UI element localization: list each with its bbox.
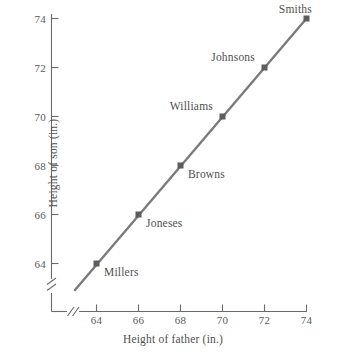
y-tick-label-64: 64 bbox=[24, 258, 46, 270]
point-label-joneses: Joneses bbox=[146, 217, 183, 229]
point-label-browns: Browns bbox=[188, 168, 225, 180]
data-point-marker bbox=[262, 65, 268, 71]
x-tick-label-64: 64 bbox=[91, 314, 102, 326]
x-tick-label-70: 70 bbox=[217, 314, 228, 326]
y-tick-label-66: 66 bbox=[24, 209, 46, 221]
scatter-line-chart: 74 72 70 68 66 64 64 66 68 70 72 74 Heig… bbox=[0, 0, 347, 353]
x-axis-ticks bbox=[97, 305, 307, 312]
x-axis-break-icon bbox=[68, 307, 80, 316]
x-tick-label-74: 74 bbox=[301, 314, 312, 326]
y-axis-title: Height of son (in.) bbox=[47, 119, 59, 208]
point-label-millers: Millers bbox=[104, 266, 139, 278]
y-tick-label-70: 70 bbox=[24, 111, 46, 123]
y-tick-label-72: 72 bbox=[24, 62, 46, 74]
point-label-johnsons: Johnsons bbox=[211, 51, 255, 63]
data-point-marker bbox=[178, 163, 184, 169]
x-axis-title: Height of father (in.) bbox=[123, 333, 223, 345]
data-point-marker bbox=[136, 212, 142, 218]
data-point-marker bbox=[304, 16, 310, 22]
x-tick-label-66: 66 bbox=[133, 314, 144, 326]
x-tick-label-68: 68 bbox=[175, 314, 186, 326]
y-tick-label-68: 68 bbox=[24, 160, 46, 172]
data-line bbox=[75, 19, 307, 291]
x-tick-label-72: 72 bbox=[259, 314, 270, 326]
point-label-smiths: Smiths bbox=[279, 3, 312, 15]
y-tick-label-74: 74 bbox=[24, 13, 46, 25]
data-point-marker bbox=[220, 114, 226, 120]
point-label-williams: Williams bbox=[170, 100, 213, 112]
y-axis-break-icon bbox=[47, 278, 56, 291]
data-point-marker bbox=[94, 261, 100, 267]
